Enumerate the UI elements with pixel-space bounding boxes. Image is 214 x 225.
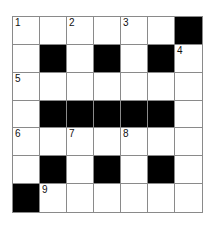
crossword-cell[interactable] — [175, 156, 202, 184]
clue-number: 7 — [69, 129, 75, 139]
clue-number: 8 — [123, 129, 129, 139]
crossword-cell[interactable] — [94, 17, 121, 45]
black-square — [67, 101, 94, 129]
black-square — [148, 156, 175, 184]
crossword-cell[interactable] — [121, 45, 148, 73]
crossword-cell[interactable] — [94, 73, 121, 101]
black-square — [40, 156, 67, 184]
crossword-cell[interactable]: 1 — [13, 17, 40, 45]
crossword-cell[interactable] — [67, 156, 94, 184]
clue-number: 9 — [42, 185, 48, 195]
clue-number: 5 — [15, 74, 21, 84]
crossword-cell[interactable]: 9 — [40, 184, 67, 212]
crossword-cell[interactable] — [94, 184, 121, 212]
clue-number: 2 — [69, 18, 75, 28]
crossword-cell[interactable] — [148, 17, 175, 45]
crossword-cell[interactable] — [13, 101, 40, 129]
black-square — [175, 17, 202, 45]
black-square — [94, 45, 121, 73]
crossword-cell[interactable] — [121, 184, 148, 212]
crossword-cell[interactable]: 2 — [67, 17, 94, 45]
clue-number: 6 — [15, 129, 21, 139]
crossword-cell[interactable]: 6 — [13, 128, 40, 156]
crossword-cell[interactable]: 4 — [175, 45, 202, 73]
crossword-grid: 123456789 — [12, 16, 203, 213]
crossword-cell[interactable] — [67, 45, 94, 73]
black-square — [13, 184, 40, 212]
black-square — [148, 101, 175, 129]
black-square — [94, 156, 121, 184]
crossword-cell[interactable] — [94, 128, 121, 156]
crossword-cell[interactable] — [175, 73, 202, 101]
black-square — [121, 101, 148, 129]
crossword-cell[interactable]: 8 — [121, 128, 148, 156]
crossword-cell[interactable] — [148, 184, 175, 212]
crossword-cell[interactable] — [175, 101, 202, 129]
crossword-cell[interactable] — [148, 128, 175, 156]
black-square — [94, 101, 121, 129]
crossword-cell[interactable] — [175, 128, 202, 156]
crossword-cell[interactable] — [121, 156, 148, 184]
black-square — [40, 45, 67, 73]
crossword-cell[interactable] — [40, 73, 67, 101]
crossword-cell[interactable] — [67, 184, 94, 212]
crossword-cell[interactable]: 7 — [67, 128, 94, 156]
clue-number: 4 — [177, 46, 183, 56]
black-square — [40, 101, 67, 129]
clue-number: 3 — [123, 18, 129, 28]
black-square — [148, 45, 175, 73]
crossword-cell[interactable]: 3 — [121, 17, 148, 45]
crossword-cell[interactable] — [148, 73, 175, 101]
crossword-cell[interactable] — [67, 73, 94, 101]
clue-number: 1 — [15, 18, 21, 28]
crossword-cell[interactable] — [40, 17, 67, 45]
crossword-cell[interactable] — [13, 156, 40, 184]
crossword-cell[interactable] — [175, 184, 202, 212]
crossword-cell[interactable]: 5 — [13, 73, 40, 101]
crossword-cell[interactable] — [40, 128, 67, 156]
crossword-cell[interactable] — [13, 45, 40, 73]
crossword-cell[interactable] — [121, 73, 148, 101]
